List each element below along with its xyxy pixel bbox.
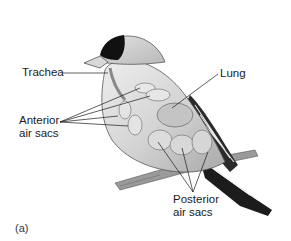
- label-anterior-air-sacs: Anterior air sacs: [19, 114, 59, 140]
- label-lung: Lung: [220, 67, 246, 80]
- panel-label: (a): [15, 222, 28, 235]
- label-anterior-line2: air sacs: [19, 127, 59, 140]
- lung: [157, 103, 193, 127]
- label-posterior-line2: air sacs: [173, 206, 219, 219]
- black-cap: [100, 35, 125, 60]
- label-posterior-line1: Posterior: [173, 193, 219, 206]
- label-trachea: Trachea: [22, 66, 64, 79]
- label-anterior-line1: Anterior: [19, 114, 59, 127]
- label-posterior-air-sacs: Posterior air sacs: [173, 193, 219, 219]
